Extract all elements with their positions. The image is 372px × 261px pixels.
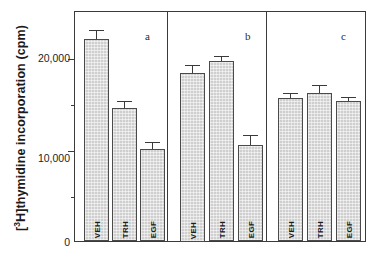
bar-a-egf: EGF (140, 149, 165, 241)
y-tick-label-10000: 10,000 (24, 152, 70, 164)
panel-label-c: c (341, 30, 346, 42)
bar-a-veh: VEH (84, 39, 109, 242)
y-tick-label-0: 0 (24, 236, 70, 248)
y-tick-label-20000: 20,000 (24, 52, 70, 64)
panel-label-b: b (245, 30, 251, 42)
errorbar-cap-a-veh (89, 30, 104, 31)
errorbar-stem-a-trh (124, 101, 125, 108)
bar-c-veh: VEH (278, 98, 303, 241)
bar-a-trh: TRH (112, 108, 137, 241)
bar-label-a-egf: EGF (148, 221, 157, 238)
bar-label-c-trh: TRH (315, 221, 324, 238)
errorbar-cap-c-veh (283, 93, 298, 94)
errorbar-stem-a-veh (96, 30, 97, 39)
bar-b-veh: VEH (180, 73, 205, 242)
errorbar-stem-b-veh (192, 65, 193, 72)
bar-c-trh: TRH (307, 93, 332, 242)
bar-label-b-veh: VEH (188, 221, 197, 238)
errorbar-cap-b-egf (243, 135, 258, 136)
bar-label-a-veh: VEH (92, 221, 101, 238)
bar-b-egf: EGF (238, 145, 263, 242)
errorbar-stem-c-trh (319, 85, 320, 93)
errorbar-stem-b-egf (250, 135, 251, 145)
bar-c-egf: EGF (336, 101, 361, 242)
y-tick-major-20000 (68, 59, 75, 60)
y-tick-minor-5000 (71, 197, 75, 198)
bar-label-c-veh: VEH (286, 221, 295, 238)
bar-label-a-trh: TRH (120, 221, 129, 238)
errorbar-cap-b-trh (214, 56, 229, 57)
plot-area: a b c VEH TRH EGF VEH TRH EGF (74, 11, 366, 242)
errorbar-stem-a-egf (152, 142, 153, 149)
errorbar-cap-b-veh (185, 65, 200, 66)
y-axis-tick-labels: 20,000 10,000 0 (20, 0, 70, 261)
bar-label-b-egf: EGF (246, 221, 255, 238)
bar-label-c-egf: EGF (344, 221, 353, 238)
bar-b-trh: TRH (209, 61, 234, 242)
bar-label-b-trh: TRH (217, 221, 226, 238)
y-tick-minor-15000 (71, 105, 75, 106)
panel-divider-b-c (266, 12, 267, 241)
errorbar-cap-a-egf (145, 142, 160, 143)
panel-divider-a-b (167, 12, 168, 241)
errorbar-cap-c-egf (341, 97, 356, 98)
y-tick-major-10000 (68, 151, 75, 152)
errorbar-cap-a-trh (117, 101, 132, 102)
figure-bar-chart: [3H]thymidine incorporation (cpm) 20,000… (0, 0, 372, 261)
errorbar-cap-c-trh (312, 85, 327, 86)
panel-label-a: a (145, 30, 150, 42)
